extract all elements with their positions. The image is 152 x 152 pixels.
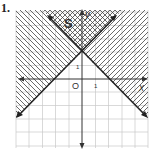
y-axis-label: y [84,9,91,20]
x-axis-label: x [138,82,145,93]
y-tick-label: 1 [76,64,80,70]
x-tick-label: 1 [94,83,98,89]
origin-label: O [72,81,79,91]
region-label-s: S [64,16,73,31]
coordinate-graph: S y x O 1 1 [0,0,152,152]
